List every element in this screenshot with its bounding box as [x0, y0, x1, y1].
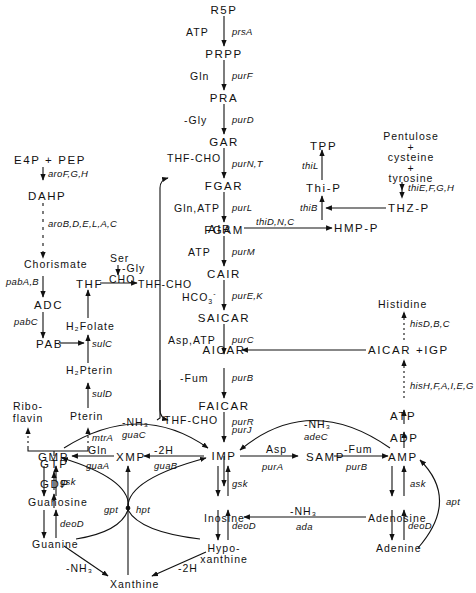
enzyme-purNT: purN,T: [232, 158, 263, 170]
metabolite-thf: THF: [76, 278, 103, 290]
metabolite-tpp: TPP: [310, 140, 337, 152]
metabolite-adenine: Adenine: [376, 542, 422, 554]
metabolite-samp: SAMP: [306, 451, 345, 463]
enzyme-sulC: sulC: [92, 338, 112, 350]
cofactor-gln-atp: Gln,ATP: [174, 202, 220, 214]
metabolite-h2folate: H₂Folate: [66, 320, 115, 332]
cofactor-atp: ATP: [186, 26, 209, 38]
enzyme-pabC: pabC: [14, 316, 38, 328]
enzyme-purF: purF: [232, 70, 253, 82]
metabolite-cair: CAIR: [200, 268, 248, 280]
metabolite-adp: ADP: [390, 432, 418, 444]
enzyme-mtrA: mtrA: [92, 432, 113, 444]
metabolite-thf-cho: THF-CHO: [138, 278, 192, 290]
cofactor-asp: Asp: [266, 443, 287, 455]
cofactor-minus-2h: -2H: [154, 444, 174, 456]
enzyme-deoD: deoD: [60, 518, 84, 530]
enzyme-gsk: gsk: [60, 476, 76, 488]
cofactor-nh3-ada: -NH₃: [290, 505, 317, 517]
cofactor-nh3-adec: -NH₃: [304, 418, 331, 430]
metabolite-h2pterin: H₂Pterin: [66, 364, 113, 376]
enzyme-sulD: sulD: [92, 388, 112, 400]
metabolite-guanine: Guanine: [32, 538, 79, 550]
metabolite-adc: ADC: [34, 299, 63, 311]
metabolite-gmp: GMP: [38, 451, 69, 463]
cofactor-cho: CHO: [109, 273, 135, 285]
enzyme-guaA: guaA: [86, 460, 109, 472]
metabolite-chorismate: Chorismate: [24, 258, 88, 270]
metabolite-prpp: PRPP: [200, 48, 248, 60]
enzyme-prsA: prsA: [232, 26, 253, 38]
enzyme-deoD-2: deoD: [232, 520, 256, 532]
cofactor-hco3: HCO3-: [182, 288, 217, 308]
metabolite-thz-p: THZ-P: [388, 202, 430, 214]
enzyme-apt: apt: [446, 496, 460, 508]
metabolite-thi-p: Thi-P: [306, 182, 341, 194]
metabolite-fgar: FGAR: [200, 180, 248, 192]
enzyme-gsk-2: gsk: [232, 478, 248, 490]
enzyme-aroFGH: aroF,G,H: [48, 168, 88, 180]
cofactor-atp-2: ATP: [188, 246, 211, 258]
cofactor-gln: Gln: [190, 70, 209, 82]
cofactor-thf-cho-2: THF-CHO: [164, 414, 218, 426]
metabolite-hmp-p: HMP-P: [334, 222, 379, 234]
metabolite-pra: PRA: [204, 92, 244, 104]
metabolite-e4p-pep: E4P + PEP: [14, 154, 86, 166]
enzyme-gpt: gpt: [104, 504, 118, 516]
cofactor-fum-2: -Fum: [344, 443, 373, 455]
metabolite-histidine: Histidine: [378, 298, 427, 310]
enzyme-hisDBC: hisD,B,C: [410, 318, 450, 330]
metabolite-imp: IMP: [204, 450, 244, 462]
metabolite-pterin: Pterin: [70, 410, 103, 422]
metabolite-xmp: XMP: [116, 451, 146, 463]
enzyme-pabAB: pabA,B: [6, 276, 39, 288]
metabolite-atp: ATP: [390, 410, 416, 422]
enzyme-purL: purL: [232, 202, 252, 214]
metabolite-riboflavin-2: flavin: [8, 412, 48, 424]
metabolite-hypoxanthine-2: xanthine: [196, 553, 252, 565]
enzyme-hisHFAIEG: hisH,F,A,I,E,G: [410, 380, 474, 392]
cofactor-thf-cho: THF-CHO: [167, 152, 221, 164]
enzyme-purC: purC: [232, 334, 254, 346]
enzyme-purA: purA: [262, 461, 283, 473]
metabolite-tyrosine: tyrosine: [376, 172, 446, 184]
metabolite-faicar: FAICAR: [194, 400, 254, 412]
enzyme-ask: ask: [410, 478, 426, 490]
enzyme-purB-2: purB: [346, 461, 367, 473]
enzyme-deoD-3: deoD: [408, 520, 432, 532]
enzyme-thiL: thiL: [302, 160, 319, 172]
cofactor-minus-2h-2: -2H: [178, 562, 198, 574]
cofactor-gly: -Gly: [184, 114, 207, 126]
cofactor-fum: -Fum: [180, 372, 209, 384]
metabolite-guanosine: Guanosine: [28, 496, 88, 508]
metabolite-gar: GAR: [204, 136, 244, 148]
metabolite-air: AIR: [208, 223, 232, 235]
metabolite-r5p: R5P: [204, 4, 244, 16]
metabolite-amp: AMP: [388, 451, 418, 463]
metabolite-pab: PAB: [36, 338, 63, 350]
pathway-diagram: R5P PRPP PRA GAR FGAR FGAM AIR CAIR SAIC…: [0, 0, 476, 593]
enzyme-adeC: adeC: [304, 431, 328, 443]
enzyme-guaB: guaB: [154, 460, 177, 472]
metabolite-saicar: SAICAR: [194, 312, 254, 324]
enzyme-purB: purB: [232, 372, 253, 384]
cofactor-nh3-2: -NH₃: [66, 562, 93, 574]
enzyme-hpt: hpt: [136, 504, 150, 516]
cofactor-asp-atp: Asp,ATP: [168, 334, 216, 346]
metabolite-xanthine: Xanthine: [110, 578, 159, 590]
enzyme-purM: purM: [232, 246, 255, 258]
enzyme-aroBDELAC: aroB,D,E,L,A,C: [48, 218, 117, 230]
metabolite-aicar-igp: AICAR +IGP: [368, 344, 449, 356]
enzyme-purEK: purE,K: [232, 290, 263, 302]
enzyme-purJ: purJ: [232, 424, 252, 436]
cofactor-gln-2: Gln: [88, 444, 107, 456]
enzyme-ada: ada: [296, 521, 313, 533]
enzyme-thiDNC: thiD,N,C: [256, 216, 294, 228]
enzyme-thiB: thiB: [300, 202, 318, 214]
enzyme-guaC: guaC: [122, 429, 146, 441]
enzyme-purD: purD: [232, 114, 254, 126]
metabolite-dahp: DAHP: [28, 190, 66, 202]
cofactor-nh3-guac: -NH₃: [122, 416, 149, 428]
metabolite-riboflavin: Ribo-: [8, 400, 48, 412]
